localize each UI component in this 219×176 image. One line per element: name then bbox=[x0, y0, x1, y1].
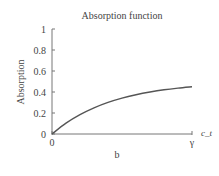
y-axis-label: Absorption bbox=[15, 60, 26, 105]
figure-caption: b bbox=[115, 149, 120, 160]
x-axis-label: c_t bbox=[201, 128, 212, 138]
chart: Absorption function Absorption 00.20.40.… bbox=[0, 0, 219, 176]
y-tick-label: 0.4 bbox=[34, 87, 47, 98]
absorption-curve bbox=[52, 87, 192, 134]
y-tick-label: 0.6 bbox=[34, 66, 47, 77]
x-tick-label: γ bbox=[189, 137, 195, 148]
y-tick-label: 0.8 bbox=[34, 45, 47, 56]
x-tick-label: 0 bbox=[50, 137, 55, 148]
chart-title: Absorption function bbox=[82, 10, 163, 21]
y-tick-label: 1 bbox=[41, 24, 46, 35]
y-tick-label: 0 bbox=[41, 129, 46, 140]
y-tick-label: 0.2 bbox=[34, 108, 47, 119]
